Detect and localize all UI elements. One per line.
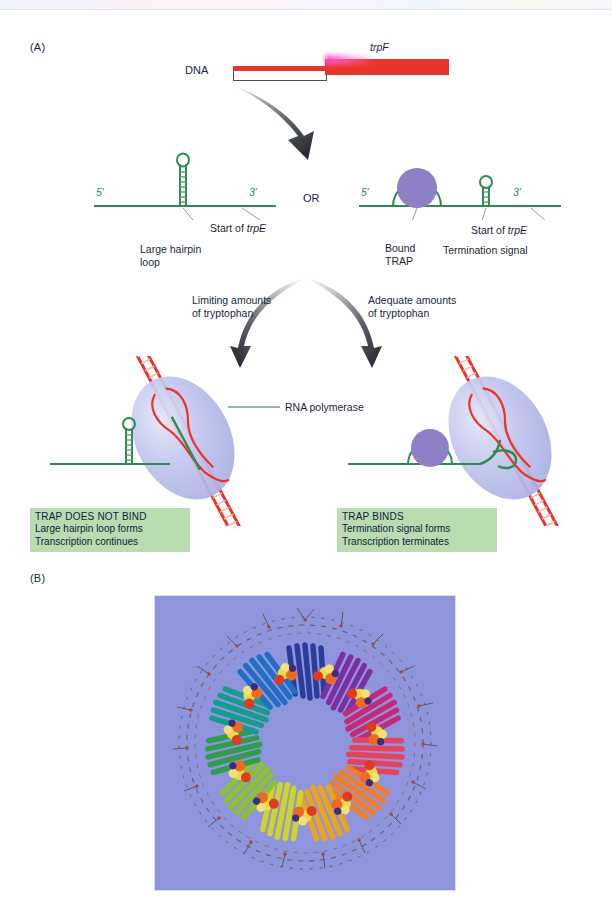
termination-signal-label: Termination signal	[443, 244, 528, 257]
rna-right-diagram	[355, 150, 565, 220]
rna-left-diagram	[90, 150, 280, 220]
hairpin-loop-label-line2: loop	[140, 256, 160, 269]
figure-root: (A) DNA trpF OR	[0, 0, 612, 920]
rna-hairpin-icon	[177, 154, 189, 207]
outcome-box-left: TRAP DOES NOT BIND Large hairpin loop fo…	[30, 508, 190, 552]
rna-right-3prime-label: 3′	[513, 186, 521, 198]
rna-left-5prime-label: 5′	[96, 186, 104, 198]
trap-protein-circle-icon	[411, 429, 449, 467]
outcome-box-right: TRAP BINDS Termination signal forms Tran…	[337, 508, 497, 552]
trap-ring-svg	[155, 596, 455, 890]
rna-right-5prime-label: 5′	[361, 186, 369, 198]
outcome-right-headline: TRAP BINDS	[342, 511, 492, 523]
dna-leader-bracket	[233, 71, 327, 81]
or-label: OR	[303, 192, 320, 204]
rna-left-start-label: Start of trpE	[210, 222, 266, 235]
outcome-left-headline: TRAP DOES NOT BIND	[35, 511, 185, 523]
rna-right-start-label: Start of trpE	[471, 224, 527, 237]
rna-polymerase-ellipse-icon	[428, 359, 572, 518]
transcription-complex-right	[330, 356, 610, 526]
outcome-left-line3: Transcription continues	[35, 536, 185, 548]
outcome-left-line2: Large hairpin loop forms	[35, 523, 185, 535]
outcome-right-line3: Transcription terminates	[342, 536, 492, 548]
panel-b-label: (B)	[30, 572, 45, 584]
branch-right-label-line1: Adequate amounts	[368, 294, 456, 307]
rna-left-3prime-label: 3′	[249, 186, 257, 198]
branch-right-label-line2: of tryptophan	[368, 307, 429, 320]
branch-arrow-left-icon	[230, 278, 306, 368]
transcription-complex-left	[20, 356, 300, 526]
branch-left-label-line1: Limiting amounts	[192, 294, 271, 307]
trap-protein-circle-icon	[397, 168, 437, 208]
gene-label-trpf: trpF	[370, 41, 389, 53]
scan-header-artifact	[0, 0, 612, 9]
rna-polymerase-leader-line	[228, 400, 284, 414]
branch-left-label-line2: of tryptophan	[192, 307, 253, 320]
hairpin-loop-label-line1: Large hairpin	[140, 243, 201, 256]
bound-trap-label-line1: Bound	[385, 242, 415, 255]
start-gene-trpe: trpE	[247, 222, 266, 234]
branch-arrow-right-icon	[306, 278, 382, 368]
panel-a-label: (A)	[30, 41, 45, 53]
scan-header-rule	[0, 9, 612, 10]
dna-label: DNA	[185, 64, 208, 76]
promoter-glow-icon	[325, 55, 377, 65]
trap-ring-structure-image	[155, 596, 455, 890]
start-gene-trpe-right: trpE	[508, 224, 527, 236]
outcome-right-line2: Termination signal forms	[342, 523, 492, 535]
bound-trap-label-line2: TRAP	[385, 255, 413, 268]
rna-termination-hairpin-icon	[480, 176, 492, 206]
